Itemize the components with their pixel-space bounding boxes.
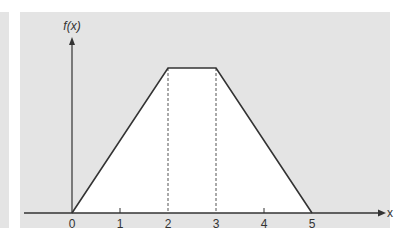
tick-label-5: 5 bbox=[309, 217, 316, 231]
trapezoid-chart: 0 1 2 3 4 5 x f(x) bbox=[0, 0, 403, 238]
x-axis-arrow-icon bbox=[378, 210, 386, 217]
y-axis-label: f(x) bbox=[63, 19, 80, 33]
tick-label-0: 0 bbox=[69, 217, 76, 231]
tick-label-1: 1 bbox=[117, 217, 124, 231]
y-axis-arrow-icon bbox=[69, 37, 75, 45]
tick-label-3: 3 bbox=[213, 217, 220, 231]
x-axis-label: x bbox=[387, 206, 393, 220]
tick-label-2: 2 bbox=[165, 217, 172, 231]
area-under-curve bbox=[72, 68, 312, 213]
tick-label-4: 4 bbox=[261, 217, 268, 231]
